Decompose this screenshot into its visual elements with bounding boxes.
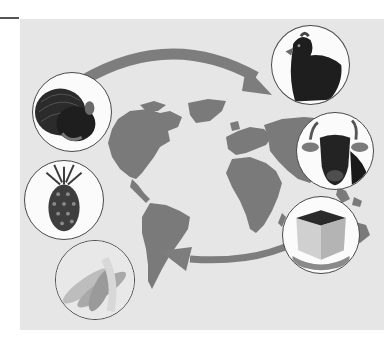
- inset-chicken: Chicken: [271, 25, 350, 105]
- inset-cow: Cow: [296, 112, 374, 190]
- cow-icon: [297, 113, 373, 189]
- north-america: [108, 109, 182, 179]
- top-arrow: [82, 54, 272, 95]
- south-america: [142, 203, 190, 289]
- inset-turkey: Turkey: [32, 72, 112, 152]
- cheese-icon: [283, 197, 359, 273]
- greenland: [188, 99, 226, 123]
- inset-cheese: Cheese: [282, 196, 360, 274]
- europe: [226, 127, 272, 155]
- inset-pineapple: Pineapple: [24, 160, 104, 240]
- corn-icon: [56, 241, 134, 319]
- top-rule: [0, 17, 19, 19]
- chicken-icon: [272, 26, 349, 104]
- africa: [226, 157, 282, 233]
- pineapple-icon: [25, 161, 103, 239]
- inset-corn: Corn: [55, 240, 135, 320]
- turkey-icon: [33, 73, 111, 151]
